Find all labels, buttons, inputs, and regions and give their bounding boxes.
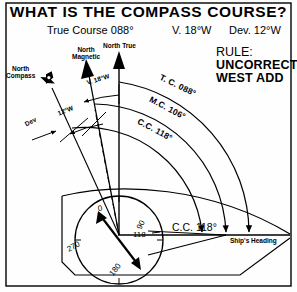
north-true-arrow (113, 51, 125, 235)
variation-angle-arc (84, 84, 119, 104)
north-magnetic-label-line2: Magnetic (72, 54, 100, 61)
diagram-canvas (0, 0, 297, 292)
north-true-label: North True (103, 43, 136, 50)
given-variation: V. 18°W (172, 25, 211, 37)
north-compass-label: North Compass (6, 66, 35, 80)
compass-course-result-label: C.C. 118° (172, 222, 217, 233)
given-true-course: True Course 088° (47, 25, 134, 37)
given-deviation: Dev. 12°W (229, 25, 281, 37)
north-compass-label-line2: Compass (6, 73, 35, 80)
compass-course-diagram: WHAT IS THE COMPASS COURSE? True Course … (0, 0, 297, 292)
ships-heading-label: Ship's Heading (230, 238, 277, 245)
rule-line-west-add: WEST ADD (216, 72, 284, 85)
rose-heading-mark-118: 118 (133, 231, 146, 239)
true-course-arc (119, 82, 249, 232)
north-magnetic-label: North Magnetic (72, 47, 100, 61)
rose-tick-0: 0 (97, 205, 103, 214)
deviation-pointer-arrow (32, 131, 56, 140)
north-compass-arrow (39, 68, 119, 235)
page-title: WHAT IS THE COMPASS COURSE? (0, 4, 297, 20)
compass-course-arc (72, 127, 202, 232)
